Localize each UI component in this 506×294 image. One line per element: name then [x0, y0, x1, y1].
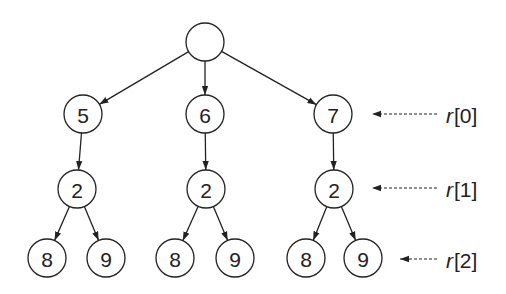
node-label: 7	[327, 104, 339, 127]
tree-node-6: 6	[186, 95, 224, 133]
node-label: 2	[71, 179, 83, 202]
tree-edges	[55, 51, 356, 240]
level-pointers: r[0]r[1]r[2]	[372, 104, 477, 272]
node-label: 9	[357, 248, 369, 271]
edge-arrow	[55, 206, 70, 240]
node-label: 9	[100, 248, 112, 271]
node-label: 8	[300, 248, 312, 271]
node-label: 8	[41, 248, 53, 271]
tree-node-8: 8	[287, 239, 325, 277]
pointer-label: r[0]	[446, 104, 477, 127]
node-label: 6	[199, 104, 211, 127]
node-label: 2	[328, 179, 340, 202]
node-circle	[186, 23, 224, 61]
tree-node-8: 8	[156, 239, 194, 277]
edge-arrow	[213, 207, 227, 241]
tree-node-9: 9	[344, 239, 382, 277]
edge-arrow	[79, 133, 82, 170]
node-label: 5	[77, 104, 89, 127]
tree-node-8: 8	[28, 239, 66, 277]
pointer-r-2: r[2]	[400, 249, 477, 272]
node-label: 9	[229, 248, 241, 271]
tree-node-2: 2	[315, 170, 353, 208]
node-label: 2	[200, 179, 212, 202]
pointer-label: r[1]	[446, 178, 477, 201]
pointer-label: r[2]	[446, 249, 477, 272]
tree-diagram: 567222898989 r[0]r[1]r[2]	[0, 0, 506, 294]
node-label: 8	[169, 248, 181, 271]
edge-arrow	[313, 207, 327, 241]
tree-node-2: 2	[58, 170, 96, 208]
pointer-r-0: r[0]	[372, 104, 477, 127]
tree-node-9: 9	[87, 239, 125, 277]
pointer-r-1: r[1]	[372, 178, 477, 201]
edge-arrow	[341, 207, 355, 241]
edge-arrow	[99, 52, 188, 105]
tree-node-9: 9	[216, 239, 254, 277]
edge-arrow	[222, 51, 317, 104]
tree-node-5: 5	[64, 95, 102, 133]
tree-node-7: 7	[314, 95, 352, 133]
tree-node-2: 2	[187, 170, 225, 208]
edge-arrow	[183, 206, 198, 240]
edge-arrow	[84, 207, 98, 241]
tree-node-root	[186, 23, 224, 61]
